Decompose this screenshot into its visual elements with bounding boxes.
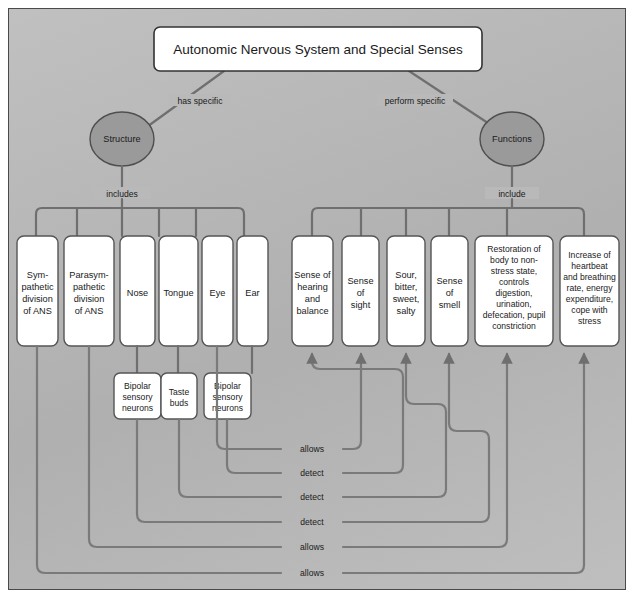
cross-link-allows-3-label: allows [300, 568, 324, 578]
node-ear-label: Ear [245, 288, 259, 298]
node-smell[interactable]: Sense of smell [431, 236, 468, 346]
node-aud-line-0: Bipolar [214, 381, 241, 391]
node-sf-line-5: cope with [571, 305, 608, 315]
node-psf-line-1: body to non- [490, 255, 538, 265]
node-sight-line-2: sight [351, 300, 371, 310]
node-tb-line-1: buds [170, 398, 189, 408]
cross-link-allows-2-label: allows [300, 542, 324, 552]
node-sight-line-1: of [357, 288, 365, 298]
node-hearing-balance[interactable]: Sense of hearing and balance [292, 236, 333, 346]
node-sight-line-0: Sense [347, 276, 373, 286]
node-hearing-balance-line-0: Sense of [294, 270, 331, 280]
node-taste-line-2: sweet, [393, 294, 420, 304]
node-parasympathetic-line-0: Parasym- [69, 270, 108, 280]
cross-link-detect-2-label: detect [300, 492, 324, 502]
node-taste-buds[interactable]: Taste buds [161, 373, 197, 419]
node-sf-line-1: heartbeat [571, 261, 608, 271]
node-eye-label: Eye [210, 288, 226, 298]
node-sympathetic-line-2: division [22, 294, 53, 304]
node-parasympathetic-line-1: pathetic [73, 282, 106, 292]
node-psf-line-2: stress state, [491, 266, 537, 276]
node-sf-line-4: expenditure, [566, 294, 613, 304]
figure-caption [10, 592, 470, 604]
node-smell-line-0: Sense [436, 276, 462, 286]
node-parasympathetic[interactable]: Parasym- pathetic division of ANS [64, 236, 114, 346]
node-parasympathetic-line-3: of ANS [75, 306, 104, 316]
cross-link-allows-1-label: allows [300, 444, 324, 454]
node-nose[interactable]: Nose [120, 236, 155, 346]
node-hearing-balance-line-2: and [305, 294, 320, 304]
branch-label-includes: includes [93, 187, 151, 199]
node-psf-line-0: Restoration of [487, 244, 541, 254]
node-olf-line-0: Bipolar [124, 381, 151, 391]
node-taste-qualities[interactable]: Sour, bitter, sweet, salty [387, 236, 425, 346]
node-olf-line-2: neurons [122, 403, 153, 413]
functions-bus [312, 208, 584, 236]
node-sympathetic-line-3: of ANS [23, 306, 52, 316]
concept-map-svg: Autonomic Nervous System and Special Sen… [9, 9, 627, 591]
root-node[interactable]: Autonomic Nervous System and Special Sen… [154, 27, 482, 71]
node-olfactory-neurons[interactable]: Bipolar sensory neurons [114, 373, 161, 419]
node-eye[interactable]: Eye [202, 236, 233, 346]
node-sf-line-6: stress [578, 316, 601, 326]
node-tb-line-0: Taste [169, 387, 190, 397]
node-hearing-balance-line-1: hearing [297, 282, 328, 292]
node-psf-line-5: urination, [496, 299, 531, 309]
node-tongue-label: Tongue [163, 288, 193, 298]
hub-functions[interactable]: Functions [480, 112, 544, 166]
diagram-frame: Autonomic Nervous System and Special Sen… [8, 8, 626, 590]
branch-label-has-specific: has specific [169, 94, 231, 106]
branch-label-include-text: include [498, 189, 525, 199]
node-ear[interactable]: Ear [237, 236, 268, 346]
diagram-page: Autonomic Nervous System and Special Sen… [0, 0, 634, 604]
structure-bus [36, 208, 244, 236]
node-parasympathetic-functions[interactable]: Restoration of body to non- stress state… [475, 236, 553, 346]
cross-link-detect-3-label: detect [300, 517, 324, 527]
node-psf-line-4: digestion, [496, 288, 533, 298]
branch-label-perform-specific: perform specific [377, 94, 453, 106]
hub-structure-label: Structure [103, 134, 140, 144]
node-tongue[interactable]: Tongue [159, 236, 198, 346]
cross-link-detect-1-path [227, 354, 403, 473]
node-olf-line-1: sensory [122, 392, 153, 402]
hub-functions-label: Functions [492, 134, 532, 144]
node-sympathetic[interactable]: Sym- pathetic division of ANS [17, 236, 58, 346]
hub-structure[interactable]: Structure [90, 112, 154, 166]
node-hearing-balance-line-3: balance [296, 306, 328, 316]
node-psf-line-7: constriction [492, 321, 536, 331]
branch-label-includes-text: includes [106, 189, 138, 199]
node-psf-line-3: controls [499, 277, 529, 287]
node-taste-line-0: Sour, [395, 270, 416, 280]
node-sf-line-0: Increase of [568, 250, 611, 260]
node-nose-label: Nose [127, 288, 148, 298]
node-taste-line-1: bitter, [395, 282, 417, 292]
node-smell-line-1: of [446, 288, 454, 298]
node-sympathetic-functions[interactable]: Increase of heartbeat and breathing rate… [560, 236, 619, 346]
branch-label-right-text: perform specific [385, 96, 446, 106]
node-sf-line-2: and breathing [563, 272, 616, 282]
node-smell-line-2: smell [439, 300, 460, 310]
node-sympathetic-line-1: pathetic [21, 282, 54, 292]
cross-link-detect-1-label: detect [300, 468, 324, 478]
node-sf-line-3: rate, energy [567, 283, 614, 293]
root-node-label: Autonomic Nervous System and Special Sen… [173, 42, 463, 57]
node-parasympathetic-line-2: division [74, 294, 105, 304]
node-sympathetic-line-0: Sym- [27, 270, 48, 280]
node-auditory-neurons[interactable]: Bipolar sensory neurons [204, 373, 251, 419]
node-psf-line-6: defecation, pupil [483, 310, 546, 320]
branch-label-left-text: has specific [178, 96, 224, 106]
cross-link-detect-auditory-hearing: detect [227, 354, 403, 478]
node-sight[interactable]: Sense of sight [342, 236, 379, 346]
node-taste-line-3: salty [397, 306, 416, 316]
branch-label-include: include [485, 187, 539, 199]
